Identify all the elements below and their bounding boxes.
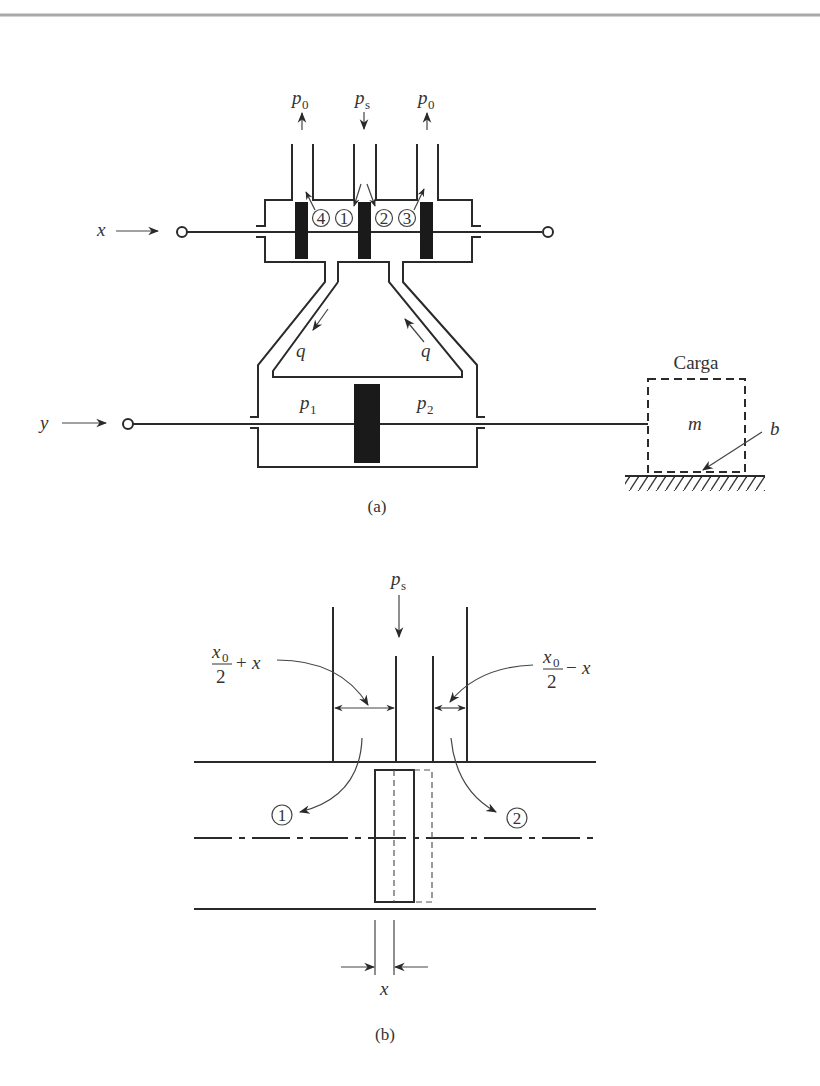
left-opening-numerator: x [211,641,221,662]
left-opening-label: x 0 2 + x [211,641,261,687]
left-opening-operator: + [236,652,247,673]
chamber-right-symbol: p [415,392,427,413]
load-title: Carga [673,352,719,373]
chamber-left-subscript: 1 [310,402,317,417]
ground-hatching [625,477,765,491]
displacement-label: x [379,978,389,999]
figure-b: p s x 0 2 + x x 0 [194,568,596,1044]
port-2-number: 2 [380,209,389,228]
left-opening-denominator: 2 [216,666,226,687]
figure-b-caption: (b) [375,1025,395,1044]
supply-pressure-subscript: s [365,97,370,112]
chamber-left-label: p 1 [298,392,317,417]
valve-body-upper-left [256,144,292,226]
load-mass-label: m [688,413,702,434]
right-opening-numerator-subscript: 0 [553,655,560,670]
left-opening-numerator-subscript: 0 [222,650,229,665]
chamber-left-symbol: p [298,392,310,413]
spool-land-center [358,202,371,259]
port-1-number: 1 [340,209,349,228]
port-2-b-number: 2 [513,809,522,828]
return-port-left-label: p 0 [290,87,309,112]
right-opening-variable: x [581,657,591,678]
damping-label: b [770,418,780,439]
port-4-number: 4 [317,209,326,228]
return-port-right-label: p 0 [416,87,435,112]
valve-body-lower-left [250,237,325,417]
output-terminal [123,419,133,429]
right-opening-label: x 0 2 − x [542,646,591,692]
port-2-b: 2 [507,808,527,828]
left-opening-variable: x [251,652,261,673]
return-pressure-left-subscript: 0 [302,97,309,112]
output-label: y [38,412,49,433]
spool-neutral-outline [414,770,432,902]
valve-input-label: x [96,219,106,240]
flow-arrow-port-2 [451,738,496,812]
servo-valve-diagram: p 0 p s p 0 x [0,0,820,1086]
damping-arrow [703,432,762,470]
power-piston [354,384,380,463]
return-pressure-right-symbol: p [416,87,428,108]
valve-body-upper-right [438,144,481,226]
flow-arrow-port-1 [300,738,362,812]
port-1-b-number: 1 [278,806,287,825]
supply-port-label: p s [353,87,370,112]
valve-rod-end-terminal [543,227,553,237]
figure-a: p 0 p s p 0 x [38,87,780,516]
return-pressure-left-symbol: p [290,87,302,108]
valve-input-terminal [177,227,187,237]
port-3-number: 3 [403,209,412,228]
port-2: 2 [376,209,393,228]
supply-pressure-b-symbol: p [389,568,401,589]
return-pressure-right-subscript: 0 [428,97,435,112]
figure-a-caption: (a) [368,497,387,516]
chamber-right-subscript: 2 [427,402,434,417]
flow-label-right: q [421,340,431,361]
supply-pressure-symbol: p [353,87,365,108]
valve-body-lower-right [403,237,485,417]
port-1-b: 1 [272,805,292,825]
right-opening-denominator: 2 [547,671,557,692]
spool-land-right [420,202,433,259]
chamber-right-label: p 2 [415,392,434,417]
port-3: 3 [399,209,416,228]
spool-land-left [295,202,308,259]
flow-label-left: q [296,340,306,361]
supply-pressure-b-label: p s [389,568,406,593]
port-1: 1 [336,209,353,228]
port-4: 4 [313,209,330,228]
right-opening-leader [450,665,533,702]
valve-body-upper-mid-left [313,144,354,200]
supply-pressure-b-subscript: s [401,578,406,593]
right-opening-numerator: x [542,646,552,667]
right-opening-operator: − [566,657,577,678]
valve-body-upper-mid-right [376,144,417,200]
left-opening-leader [277,660,368,705]
